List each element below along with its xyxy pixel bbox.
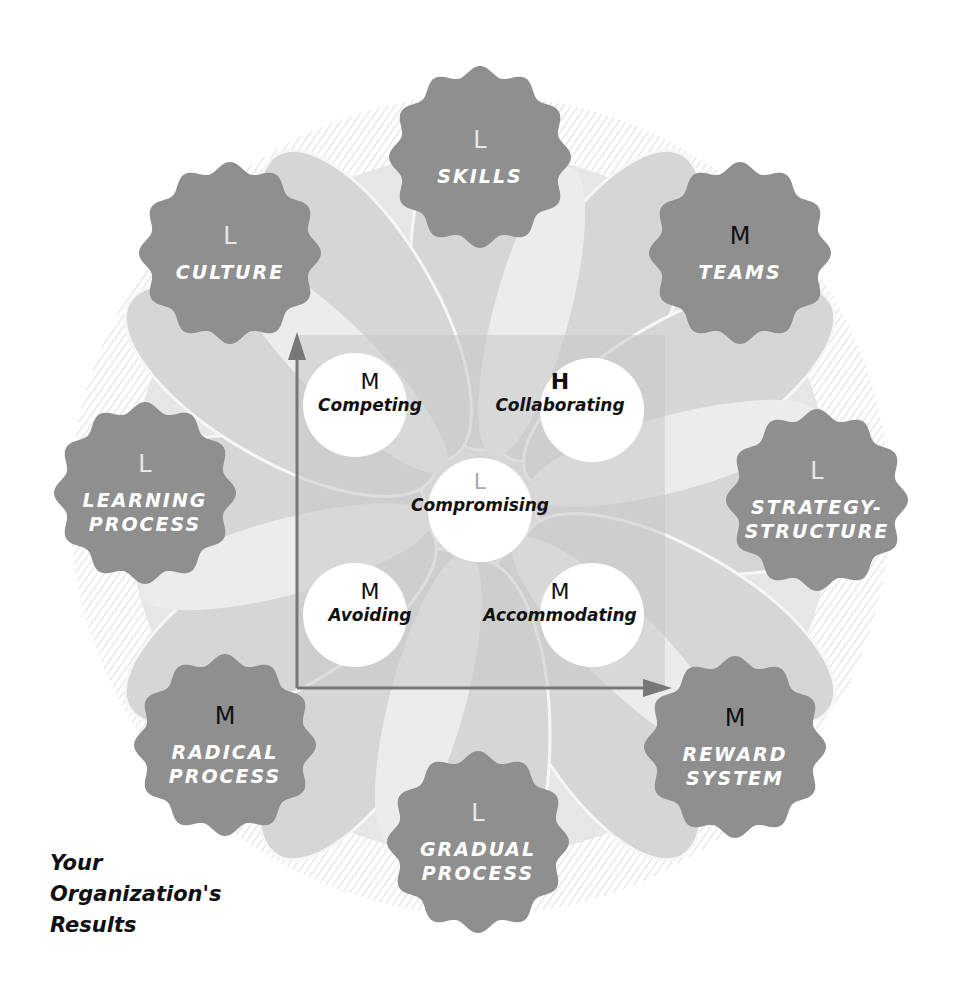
badge-skills: L SKILLS	[385, 62, 575, 252]
badge-learning-process: L LEARNING PROCESS	[50, 398, 240, 588]
badge-label-line2: SYSTEM	[686, 766, 784, 790]
badge-label-line2: PROCESS	[89, 512, 201, 536]
diagram-caption: Your Organization's Results	[50, 848, 222, 941]
badge-gradual-process: L GRADUAL PROCESS	[383, 747, 573, 937]
badge-teams: M TEAMS	[645, 158, 835, 348]
badge-level: L	[223, 222, 236, 250]
badge-label-line1: GRADUAL	[420, 837, 536, 861]
mode-name: Collaborating	[480, 394, 640, 416]
caption-line: Organization's	[50, 879, 222, 910]
badge-culture: L CULTURE	[135, 158, 325, 348]
badge-label-line2: STRUCTURE	[745, 519, 890, 543]
badge-label-line1: REWARD	[683, 742, 788, 766]
mode-avoiding: M Avoiding	[300, 580, 440, 626]
badge-level: L	[810, 457, 823, 485]
badge-level: M	[215, 702, 236, 730]
badge-reward-system: M REWARD SYSTEM	[640, 652, 830, 842]
organization-results-diagram: M Competing H Collaborating L Compromisi…	[0, 0, 969, 1004]
badge-label: TEAMS	[698, 260, 781, 284]
badge-label: SKILLS	[437, 164, 522, 188]
mode-name: Compromising	[390, 494, 570, 516]
badge-level: L	[471, 799, 484, 827]
mode-name: Accommodating	[460, 604, 660, 626]
mode-level: M	[460, 580, 660, 604]
mode-accommodating: M Accommodating	[460, 580, 660, 626]
mode-name: Avoiding	[300, 604, 440, 626]
mode-compromising: L Compromising	[390, 470, 570, 516]
mode-competing: M Competing	[300, 370, 440, 416]
mode-level: L	[390, 470, 570, 494]
badge-level: M	[725, 704, 746, 732]
badge-label-line2: PROCESS	[422, 861, 534, 885]
caption-line: Results	[50, 910, 222, 941]
badge-label-line1: RADICAL	[172, 740, 279, 764]
badge-radical-process: M RADICAL PROCESS	[130, 650, 320, 840]
badge-label: CULTURE	[176, 260, 284, 284]
badge-label-line2: PROCESS	[169, 764, 281, 788]
mode-level: M	[300, 580, 440, 604]
mode-level: H	[480, 370, 640, 394]
badge-level: L	[473, 126, 486, 154]
badge-level: M	[730, 222, 751, 250]
mode-name: Competing	[300, 394, 440, 416]
mode-collaborating: H Collaborating	[480, 370, 640, 416]
badge-strategy-structure: L STRATEGY- STRUCTURE	[722, 405, 912, 595]
badge-label-line1: STRATEGY-	[751, 495, 883, 519]
badge-level: L	[138, 450, 151, 478]
mode-level: M	[300, 370, 440, 394]
badge-label-line1: LEARNING	[83, 488, 208, 512]
caption-line: Your	[50, 848, 222, 879]
horizontal-axis-arrow-icon	[297, 679, 672, 697]
